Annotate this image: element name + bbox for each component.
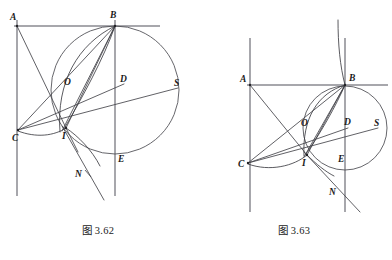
- right-label-N: N: [328, 187, 337, 197]
- figure-sheet: A B C O D S I E N: [0, 0, 392, 260]
- left-label-E: E: [117, 154, 124, 164]
- figure-right-group: A B C O D S I E N: [238, 20, 388, 212]
- left-label-I: I: [61, 131, 66, 141]
- right-segment-C-S: [248, 128, 378, 163]
- right-segment-I-N: [304, 152, 360, 212]
- right-label-A: A: [239, 74, 246, 84]
- right-arc-C-to-I: [248, 155, 307, 168]
- figure-right-caption: 图 3.63: [196, 222, 392, 237]
- right-arc-above-B: [338, 20, 345, 85]
- right-label-I: I: [301, 158, 306, 168]
- left-segment-I-short: [66, 128, 78, 152]
- right-point-A-dot: [249, 84, 251, 86]
- right-point-B-dot: [344, 84, 346, 86]
- right-label-C: C: [238, 159, 245, 169]
- right-arc-I-downward: [307, 155, 334, 176]
- right-point-C-dot: [247, 162, 249, 164]
- left-label-N: N: [74, 169, 83, 179]
- left-point-C-dot: [17, 129, 19, 131]
- right-label-B: B: [348, 73, 355, 83]
- left-point-I-dot: [65, 127, 67, 129]
- left-segment-C-D: [18, 84, 124, 130]
- left-segment-I-N: [62, 126, 104, 200]
- right-label-E: E: [337, 154, 344, 164]
- left-point-A-dot: [16, 25, 18, 27]
- right-segment-C-B: [248, 85, 345, 163]
- left-label-D: D: [119, 74, 127, 84]
- left-label-C: C: [12, 133, 19, 143]
- left-arc-I-downward: [66, 128, 100, 166]
- left-label-B: B: [109, 10, 116, 20]
- geometry-diagram-svg: A B C O D S I E N: [0, 0, 392, 260]
- left-segment-C-S: [18, 88, 178, 130]
- right-segment-A-I: [250, 85, 307, 155]
- left-label-A: A: [9, 12, 16, 22]
- right-segment-C-D: [248, 128, 348, 163]
- right-label-S: S: [374, 118, 379, 128]
- right-label-D: D: [343, 117, 351, 127]
- right-point-I-dot: [306, 154, 308, 156]
- left-label-O: O: [64, 77, 71, 87]
- right-label-O: O: [301, 118, 308, 128]
- left-point-B-dot: [114, 25, 116, 27]
- figure-left-group: A B C O D S I E N: [9, 10, 179, 200]
- left-label-S: S: [174, 78, 179, 88]
- left-arc-C-to-I: [18, 128, 66, 135]
- figure-left-caption: 图 3.62: [0, 222, 196, 237]
